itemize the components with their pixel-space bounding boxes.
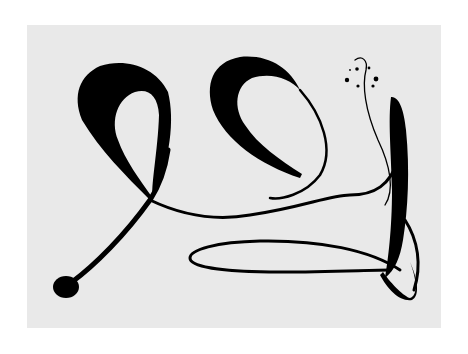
sweep-curve [150, 160, 398, 217]
right-stroke [385, 97, 408, 278]
ink-artwork [0, 0, 468, 354]
diagonal-stroke [72, 150, 168, 282]
middle-loop [210, 57, 302, 178]
bottom-ellipse [190, 241, 400, 272]
middle-loop-tail [270, 90, 326, 198]
left-loop [78, 63, 171, 200]
right-connector [405, 220, 418, 290]
